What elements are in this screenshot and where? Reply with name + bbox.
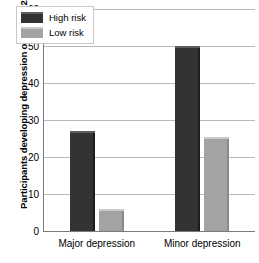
bar-top-shade	[204, 137, 229, 139]
bar-side-shade	[227, 137, 229, 231]
bar-low-risk	[99, 209, 124, 231]
bar-high-risk	[175, 46, 200, 231]
bar-face	[70, 131, 95, 231]
bar-face	[175, 46, 200, 231]
legend-item: High risk	[21, 10, 86, 25]
bar-face	[204, 137, 229, 231]
y-axis-tick-label: 20	[9, 152, 39, 163]
legend-swatch-low-risk	[21, 27, 43, 38]
bar-top-shade	[70, 131, 95, 133]
y-axis-tick-label: 10	[9, 189, 39, 200]
gridline	[44, 231, 255, 232]
legend-item: Low risk	[21, 25, 86, 40]
bar-low-risk	[204, 137, 229, 231]
y-axis-tick-label: 30	[9, 115, 39, 126]
bar-side-shade	[122, 209, 124, 231]
x-axis-tick-label: Major depression	[58, 238, 135, 249]
bar-side-shade	[198, 46, 200, 231]
bar-top-shade	[175, 46, 200, 48]
bar-chart: Participants developing depression over …	[0, 0, 259, 263]
y-axis-tick-label: 40	[9, 78, 39, 89]
legend-label-low-risk: Low risk	[49, 27, 84, 38]
bar-side-shade	[93, 131, 95, 231]
x-axis-tick-label: Minor depression	[164, 238, 241, 249]
legend-swatch-high-risk	[21, 12, 43, 23]
bar-face	[99, 209, 124, 231]
legend-label-high-risk: High risk	[49, 12, 86, 23]
y-axis-tick-label: 0	[9, 226, 39, 237]
bar-high-risk	[70, 131, 95, 231]
bar-top-shade	[99, 209, 124, 211]
legend: High risk Low risk	[16, 6, 94, 44]
